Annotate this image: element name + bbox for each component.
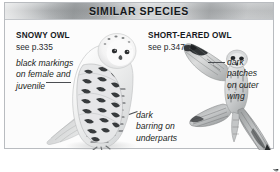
- callout-dark-patches-line-1: dark: [227, 57, 280, 68]
- callout-dark-barring: dark barring on underparts: [136, 110, 210, 144]
- panel-body: SNOWY OWL see p.335 SHORT-EARED OWL see …: [5, 20, 273, 148]
- callout-dark-barring-line-2: barring on: [136, 121, 210, 132]
- callout-dark-barring-line-1: dark: [136, 110, 210, 121]
- callout-dark-patches-line-3: on outer: [227, 80, 280, 91]
- callout-black-markings-line-3: juvenile: [16, 81, 108, 92]
- species-reference-short-eared-owl[interactable]: see p.347: [148, 42, 232, 52]
- leader-line-dark-patches: [208, 62, 225, 63]
- species-name-short-eared-owl: SHORT-EARED OWL: [148, 31, 232, 40]
- callout-dark-patches-line-2: patches: [227, 68, 280, 79]
- callout-dark-patches: dark patches on outer wing: [227, 57, 280, 103]
- leader-line-black-markings: [46, 82, 71, 83]
- similar-species-panel: SIMILAR SPECIES: [4, 2, 274, 149]
- panel-title: SIMILAR SPECIES: [5, 5, 273, 17]
- panel-header: SIMILAR SPECIES: [5, 3, 273, 20]
- callout-black-markings: black markings on female and juvenile: [16, 58, 108, 92]
- callout-dark-barring-line-3: underparts: [136, 133, 210, 144]
- species-block-short-eared-owl: SHORT-EARED OWL see p.347: [148, 31, 232, 52]
- species-block-snowy-owl: SNOWY OWL see p.335: [16, 31, 70, 52]
- callout-dark-patches-line-4: wing: [227, 91, 280, 102]
- callout-black-markings-line-2: on female and: [16, 69, 108, 80]
- species-name-snowy-owl: SNOWY OWL: [16, 31, 70, 40]
- callout-black-markings-line-1: black markings: [16, 58, 108, 69]
- species-reference-snowy-owl[interactable]: see p.335: [16, 42, 70, 52]
